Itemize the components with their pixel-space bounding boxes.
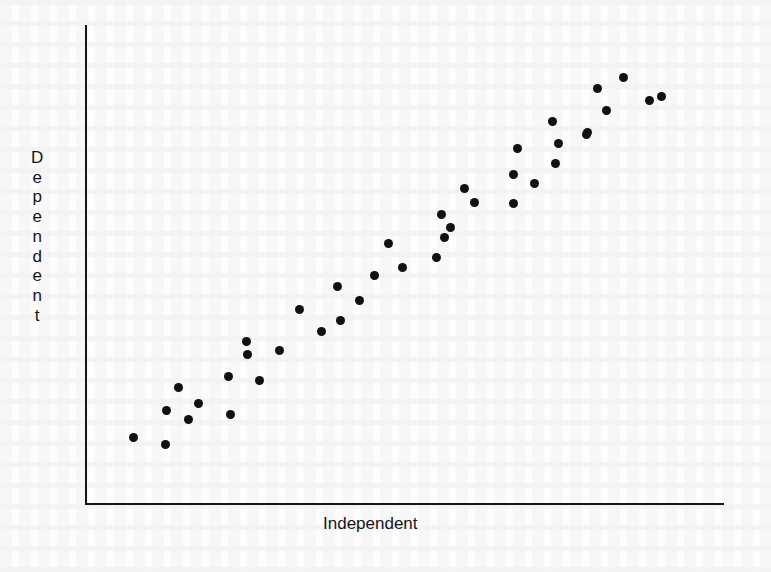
data-point <box>355 296 364 305</box>
y-axis-label-char: t <box>35 306 40 326</box>
y-axis-label-char: n <box>32 286 41 306</box>
data-point <box>295 305 304 314</box>
data-point <box>161 440 170 449</box>
plot-area <box>0 0 771 572</box>
data-point <box>333 282 342 291</box>
data-point <box>432 253 441 262</box>
data-point <box>317 327 326 336</box>
data-point <box>384 239 393 248</box>
data-point <box>583 128 592 137</box>
data-point <box>645 96 654 105</box>
data-point <box>129 433 138 442</box>
data-point <box>242 337 251 346</box>
y-axis-label-char: e <box>32 266 41 286</box>
y-axis-label-char: n <box>32 227 41 247</box>
data-point <box>194 399 203 408</box>
data-point <box>593 84 602 93</box>
data-point <box>224 372 233 381</box>
data-point <box>657 92 666 101</box>
x-axis-line <box>85 503 724 505</box>
data-point <box>243 350 252 359</box>
data-point <box>437 210 446 219</box>
y-axis-label-char: p <box>32 187 41 207</box>
data-point <box>509 199 518 208</box>
y-axis-label-char: d <box>32 247 41 267</box>
y-axis-line <box>85 25 87 503</box>
data-point <box>470 198 479 207</box>
data-point <box>370 271 379 280</box>
data-point <box>513 144 522 153</box>
data-point <box>619 73 628 82</box>
y-axis-label-char: e <box>32 207 41 227</box>
data-point <box>530 179 539 188</box>
data-point <box>226 410 235 419</box>
data-point <box>398 263 407 272</box>
data-point <box>446 223 455 232</box>
data-point <box>602 106 611 115</box>
data-point <box>460 184 469 193</box>
y-axis-label-char: D <box>31 148 43 168</box>
data-point <box>162 406 171 415</box>
data-point <box>336 316 345 325</box>
y-axis-label-char: e <box>32 168 41 188</box>
data-point <box>509 170 518 179</box>
data-point <box>174 383 183 392</box>
data-point <box>275 346 284 355</box>
data-point <box>184 415 193 424</box>
data-point <box>440 233 449 242</box>
x-axis-label: Independent <box>323 514 418 534</box>
data-point <box>255 376 264 385</box>
scatter-plot-figure: Dependent Independent <box>0 0 771 572</box>
data-point <box>551 159 560 168</box>
data-point <box>548 117 557 126</box>
data-point <box>554 139 563 148</box>
y-axis-label: Dependent <box>31 148 43 325</box>
